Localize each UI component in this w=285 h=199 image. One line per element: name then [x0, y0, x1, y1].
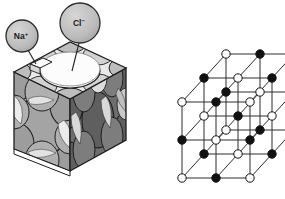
lattice-node-anion[interactable]: [234, 150, 242, 158]
lattice-node-cation[interactable]: [268, 74, 276, 82]
lattice-node-anion[interactable]: [268, 112, 276, 120]
lattice-node-anion[interactable]: [178, 174, 186, 182]
space-filling-cube: [0, 31, 143, 190]
lattice-node-anion[interactable]: [246, 174, 254, 182]
lattice-bond: [250, 154, 272, 178]
lattice-bond: [182, 116, 204, 140]
lattice-bond: [182, 78, 204, 102]
lattice-bond: [216, 154, 238, 178]
figure-canvas: Na+ Cl−: [0, 0, 285, 199]
lattice-node-cation[interactable]: [200, 74, 208, 82]
lattice-node-anion[interactable]: [246, 98, 254, 106]
nacl-structure-figure: Na+ Cl−: [0, 0, 285, 199]
lattice-node-cation[interactable]: [268, 150, 276, 158]
lattice-node-cation[interactable]: [178, 136, 186, 144]
lattice-bond: [238, 54, 260, 78]
lattice-bond: [204, 54, 226, 78]
lattice-bond: [182, 154, 204, 178]
lattice-node-anion[interactable]: [200, 112, 208, 120]
lattice-node-cation[interactable]: [212, 98, 220, 106]
ball-and-stick-lattice: [178, 50, 285, 182]
lattice-node-anion[interactable]: [234, 74, 242, 82]
lattice-node-anion[interactable]: [256, 88, 264, 96]
lattice-node-cation[interactable]: [256, 50, 264, 58]
callout-na[interactable]: Na+: [6, 20, 38, 52]
lattice-node-cation[interactable]: [234, 112, 242, 120]
lattice-node-anion[interactable]: [212, 136, 220, 144]
lattice-node-cation[interactable]: [222, 88, 230, 96]
lattice-node-cation[interactable]: [212, 174, 220, 182]
lattice-node-anion[interactable]: [178, 98, 186, 106]
lattice-node-anion[interactable]: [222, 126, 230, 134]
lattice-node-anion[interactable]: [222, 50, 230, 58]
callout-cl[interactable]: Cl−: [60, 3, 100, 43]
lattice-node-cation[interactable]: [256, 126, 264, 134]
lattice-node-cation[interactable]: [246, 136, 254, 144]
lattice-node-cation[interactable]: [200, 150, 208, 158]
